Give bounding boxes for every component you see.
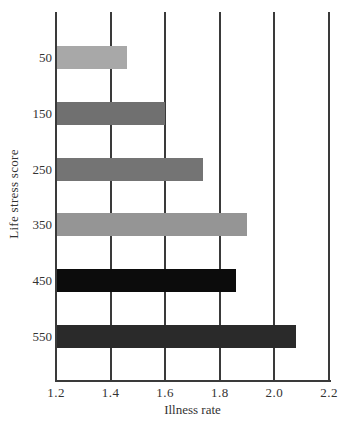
y-tick-label: 150	[33, 102, 53, 125]
x-tick-label: 1.8	[200, 385, 240, 401]
x-axis-line	[56, 380, 331, 382]
x-tick-label: 1.6	[145, 385, 185, 401]
y-tick-label: 350	[33, 213, 53, 236]
bar-150	[57, 102, 165, 125]
x-axis-label: Illness rate	[56, 402, 329, 418]
bar-chart: 50150250350450550 1.21.41.61.82.02.2 Ill…	[0, 0, 349, 422]
x-tick-label: 1.4	[91, 385, 131, 401]
bar-350	[57, 213, 247, 236]
x-tick-label: 1.2	[36, 385, 76, 401]
y-tick-label: 450	[33, 269, 53, 292]
x-tick-label: 2.2	[309, 385, 349, 401]
y-axis-label: Life stress score	[6, 149, 22, 239]
y-tick-label: 250	[33, 158, 53, 181]
bar-50	[57, 46, 127, 69]
bar-250	[57, 158, 203, 181]
bar-550	[57, 325, 296, 348]
y-tick-label: 50	[39, 46, 52, 69]
y-tick-label: 550	[33, 325, 53, 348]
x-tick-label: 2.0	[254, 385, 294, 401]
gridline	[328, 12, 330, 382]
bar-450	[57, 269, 236, 292]
